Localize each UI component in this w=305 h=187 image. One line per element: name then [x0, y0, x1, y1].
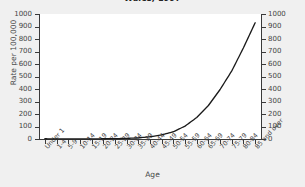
chart-title: Wales, 1997 — [0, 0, 305, 3]
y-tick-left-600 — [35, 64, 39, 65]
y-tick-label-left-700: 700 — [19, 48, 32, 55]
y-tick-label-right-700: 700 — [268, 48, 281, 55]
y-tick-right-400 — [262, 89, 266, 90]
y-tick-right-100 — [262, 127, 266, 128]
y-tick-label-left-800: 800 — [19, 36, 32, 43]
y-tick-left-1000 — [35, 14, 39, 15]
y-tick-label-left-600: 600 — [19, 61, 32, 68]
y-tick-label-right-400: 400 — [268, 86, 281, 93]
y-tick-label-left-0: 0 — [28, 136, 32, 143]
y-tick-left-300 — [35, 102, 39, 103]
y-tick-left-400 — [35, 89, 39, 90]
y-tick-label-right-300: 300 — [268, 98, 281, 105]
y-tick-right-900 — [262, 27, 266, 28]
y-tick-label-left-900: 900 — [19, 23, 32, 30]
y-tick-right-800 — [262, 39, 266, 40]
x-axis-label: Age — [0, 170, 305, 179]
y-axis-left-line — [39, 14, 40, 140]
y-tick-left-500 — [35, 77, 39, 78]
y-tick-right-700 — [262, 52, 266, 53]
y-tick-label-left-100: 100 — [19, 123, 32, 130]
y-tick-label-right-500: 500 — [268, 73, 281, 80]
y-tick-label-left-400: 400 — [19, 86, 32, 93]
y-tick-label-left-300: 300 — [19, 98, 32, 105]
plot-area — [39, 14, 261, 139]
y-tick-left-200 — [35, 114, 39, 115]
y-tick-label-left-200: 200 — [19, 111, 32, 118]
y-tick-left-800 — [35, 39, 39, 40]
y-tick-label-right-600: 600 — [268, 61, 281, 68]
y-axis-label: Rate per 100,000 — [9, 15, 18, 91]
y-tick-label-left-1000: 1000 — [14, 11, 32, 18]
y-tick-label-right-800: 800 — [268, 36, 281, 43]
y-tick-right-500 — [262, 77, 266, 78]
y-tick-right-600 — [262, 64, 266, 65]
y-tick-right-300 — [262, 102, 266, 103]
y-tick-left-0 — [35, 139, 39, 140]
y-tick-left-900 — [35, 27, 39, 28]
chart-container: Wales, 1997 Rate per 100,000 00100100200… — [0, 0, 305, 187]
y-tick-label-right-1000: 1000 — [268, 11, 286, 18]
y-tick-right-1000 — [262, 14, 266, 15]
y-tick-left-100 — [35, 127, 39, 128]
y-tick-right-200 — [262, 114, 266, 115]
y-tick-label-right-900: 900 — [268, 23, 281, 30]
y-tick-label-left-500: 500 — [19, 73, 32, 80]
y-tick-left-700 — [35, 52, 39, 53]
